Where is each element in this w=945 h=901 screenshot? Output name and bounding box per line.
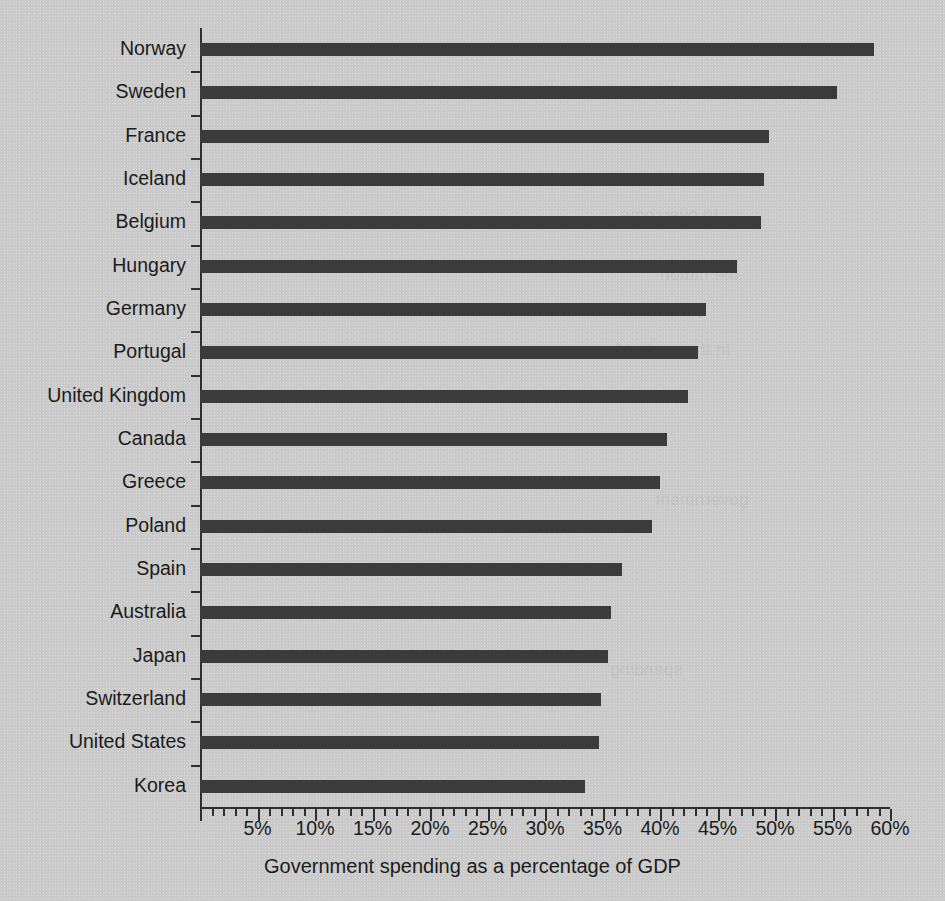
bar[interactable] bbox=[200, 433, 667, 446]
category-label: Germany bbox=[0, 297, 186, 320]
bar-row[interactable]: United States bbox=[200, 721, 890, 764]
bar-row[interactable]: Poland bbox=[200, 505, 890, 548]
bar-row[interactable]: Japan bbox=[200, 635, 890, 678]
bar[interactable] bbox=[200, 43, 874, 56]
bar-row[interactable]: Norway bbox=[200, 28, 890, 71]
x-axis-minor-tick bbox=[223, 809, 225, 816]
x-axis-minor-tick bbox=[856, 809, 858, 816]
bar[interactable] bbox=[200, 606, 611, 619]
bar-row[interactable]: Germany bbox=[200, 288, 890, 331]
x-axis-minor-tick bbox=[580, 809, 582, 816]
bar-row[interactable]: Hungary bbox=[200, 245, 890, 288]
bar-row[interactable]: Greece bbox=[200, 461, 890, 504]
category-label: United Kingdom bbox=[0, 384, 186, 407]
category-label: Sweden bbox=[0, 80, 186, 103]
x-axis-tick-label: 35% bbox=[583, 817, 622, 840]
x-axis-minor-tick bbox=[591, 809, 593, 816]
x-axis-minor-tick bbox=[626, 809, 628, 816]
x-axis-minor-tick bbox=[695, 809, 697, 816]
bar[interactable] bbox=[200, 173, 764, 186]
x-axis-minor-tick bbox=[787, 809, 789, 816]
x-axis-minor-tick bbox=[292, 809, 294, 816]
category-label: Portugal bbox=[0, 340, 186, 363]
bar-row[interactable]: Belgium bbox=[200, 201, 890, 244]
x-axis-minor-tick bbox=[281, 809, 283, 816]
x-axis-tick-label: 15% bbox=[353, 817, 392, 840]
category-label: Belgium bbox=[0, 210, 186, 233]
x-axis-minor-tick bbox=[798, 809, 800, 816]
x-axis-minor-tick bbox=[465, 809, 467, 816]
x-axis-tick-label: 25% bbox=[468, 817, 507, 840]
category-label: Iceland bbox=[0, 167, 186, 190]
category-label: Greece bbox=[0, 470, 186, 493]
bar[interactable] bbox=[200, 86, 837, 99]
x-axis-minor-tick bbox=[614, 809, 616, 816]
x-axis-minor-tick bbox=[396, 809, 398, 816]
bar[interactable] bbox=[200, 563, 622, 576]
bar[interactable] bbox=[200, 780, 585, 793]
bar-row[interactable]: Korea bbox=[200, 765, 890, 808]
category-label: United States bbox=[0, 730, 186, 753]
x-axis-minor-tick bbox=[637, 809, 639, 816]
category-label: Australia bbox=[0, 600, 186, 623]
category-label: Korea bbox=[0, 774, 186, 797]
category-label: France bbox=[0, 124, 186, 147]
bar[interactable] bbox=[200, 260, 737, 273]
bar-row[interactable]: Spain bbox=[200, 548, 890, 591]
x-axis-minor-tick bbox=[361, 809, 363, 816]
bar-row[interactable]: France bbox=[200, 115, 890, 158]
plot-area: NorwaySwedenFranceIcelandBelgiumHungaryG… bbox=[200, 28, 890, 808]
x-axis-minor-tick bbox=[752, 809, 754, 816]
x-axis-minor-tick bbox=[350, 809, 352, 816]
bar[interactable] bbox=[200, 130, 769, 143]
x-axis-tick-label: 45% bbox=[698, 817, 737, 840]
bar[interactable] bbox=[200, 736, 599, 749]
x-axis-minor-tick bbox=[304, 809, 306, 816]
y-axis-tick bbox=[191, 505, 200, 507]
category-label: Switzerland bbox=[0, 687, 186, 710]
x-axis-tick-label: 20% bbox=[410, 817, 449, 840]
category-label: Canada bbox=[0, 427, 186, 450]
x-axis-minor-tick bbox=[706, 809, 708, 816]
x-axis-minor-tick bbox=[729, 809, 731, 816]
x-axis-minor-tick bbox=[568, 809, 570, 816]
y-axis-tick bbox=[191, 721, 200, 723]
bar[interactable] bbox=[200, 693, 601, 706]
bar[interactable] bbox=[200, 390, 688, 403]
x-axis-minor-tick bbox=[741, 809, 743, 816]
bar-row[interactable]: Sweden bbox=[200, 71, 890, 114]
y-axis-tick bbox=[191, 678, 200, 680]
x-axis-title: Government spending as a percentage of G… bbox=[0, 855, 945, 878]
bar-row[interactable]: United Kingdom bbox=[200, 375, 890, 418]
y-axis-tick bbox=[191, 548, 200, 550]
bar-row[interactable]: Australia bbox=[200, 591, 890, 634]
x-axis-minor-tick bbox=[235, 809, 237, 816]
category-label: Japan bbox=[0, 644, 186, 667]
x-axis-minor-tick bbox=[522, 809, 524, 816]
bar[interactable] bbox=[200, 650, 608, 663]
y-axis-tick bbox=[191, 158, 200, 160]
x-axis-minor-tick bbox=[499, 809, 501, 816]
x-axis-minor-tick bbox=[419, 809, 421, 816]
y-axis-tick bbox=[191, 201, 200, 203]
bar-row[interactable]: Canada bbox=[200, 418, 890, 461]
x-axis-minor-tick bbox=[511, 809, 513, 816]
bar[interactable] bbox=[200, 476, 660, 489]
x-axis-tick-label: 40% bbox=[640, 817, 679, 840]
x-axis-major-tick bbox=[200, 809, 202, 821]
bar-row[interactable]: Iceland bbox=[200, 158, 890, 201]
x-axis-tick-label: 60% bbox=[870, 817, 909, 840]
bar-row[interactable]: Portugal bbox=[200, 331, 890, 374]
bar-row[interactable]: Switzerland bbox=[200, 678, 890, 721]
x-axis-minor-tick bbox=[844, 809, 846, 816]
bar[interactable] bbox=[200, 346, 698, 359]
bar[interactable] bbox=[200, 520, 652, 533]
x-axis-minor-tick bbox=[764, 809, 766, 816]
x-axis-minor-tick bbox=[407, 809, 409, 816]
y-axis-tick bbox=[191, 418, 200, 420]
y-axis-tick bbox=[191, 375, 200, 377]
bar[interactable] bbox=[200, 303, 706, 316]
x-axis-tick-label: 30% bbox=[525, 817, 564, 840]
category-label: Poland bbox=[0, 514, 186, 537]
bar[interactable] bbox=[200, 216, 761, 229]
